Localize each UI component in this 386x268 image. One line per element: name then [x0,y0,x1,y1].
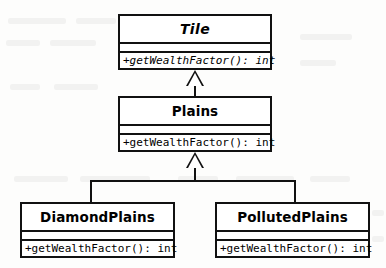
generalization-line-diamondplains [90,180,92,202]
class-operation-plains: +getWealthFactor(): int [120,135,270,150]
scan-artifact [372,210,384,216]
scan-artifact [76,18,116,24]
scan-artifact [300,60,336,66]
scan-artifact [372,236,384,242]
class-name-plains: Plains [120,98,270,126]
generalization-line-pollutedplains [294,180,296,202]
class-operation-tile: +getWealthFactor(): int [120,53,270,68]
scan-artifact [310,176,350,182]
scan-artifact [50,40,96,46]
class-box-diamondplains[interactable]: DiamondPlains +getWealthFactor(): int [20,202,175,258]
scan-artifact [6,40,40,46]
class-name-pollutedplains: PollutedPlains [217,204,368,232]
scan-artifact [300,34,352,40]
generalization-line-plains-to-tile [194,86,196,96]
class-box-plains[interactable]: Plains +getWealthFactor(): int [118,96,272,152]
scan-artifact [10,84,40,90]
class-attributes-plains [120,126,270,135]
class-attributes-diamondplains [22,232,173,241]
class-box-pollutedplains[interactable]: PollutedPlains +getWealthFactor(): int [215,202,370,258]
class-box-tile[interactable]: Tile +getWealthFactor(): int [118,14,272,70]
class-operation-diamondplains: +getWealthFactor(): int [22,241,173,256]
generalization-branch-bar [90,180,296,182]
scan-artifact [8,18,66,24]
uml-class-diagram: Tile +getWealthFactor(): int Plains +get… [0,0,386,268]
class-name-diamondplains: DiamondPlains [22,204,173,232]
scan-artifact [54,84,98,90]
class-name-tile: Tile [120,16,270,44]
class-operation-pollutedplains: +getWealthFactor(): int [217,241,368,256]
class-attributes-pollutedplains [217,232,368,241]
class-attributes-tile [120,44,270,53]
scan-artifact [14,176,68,182]
